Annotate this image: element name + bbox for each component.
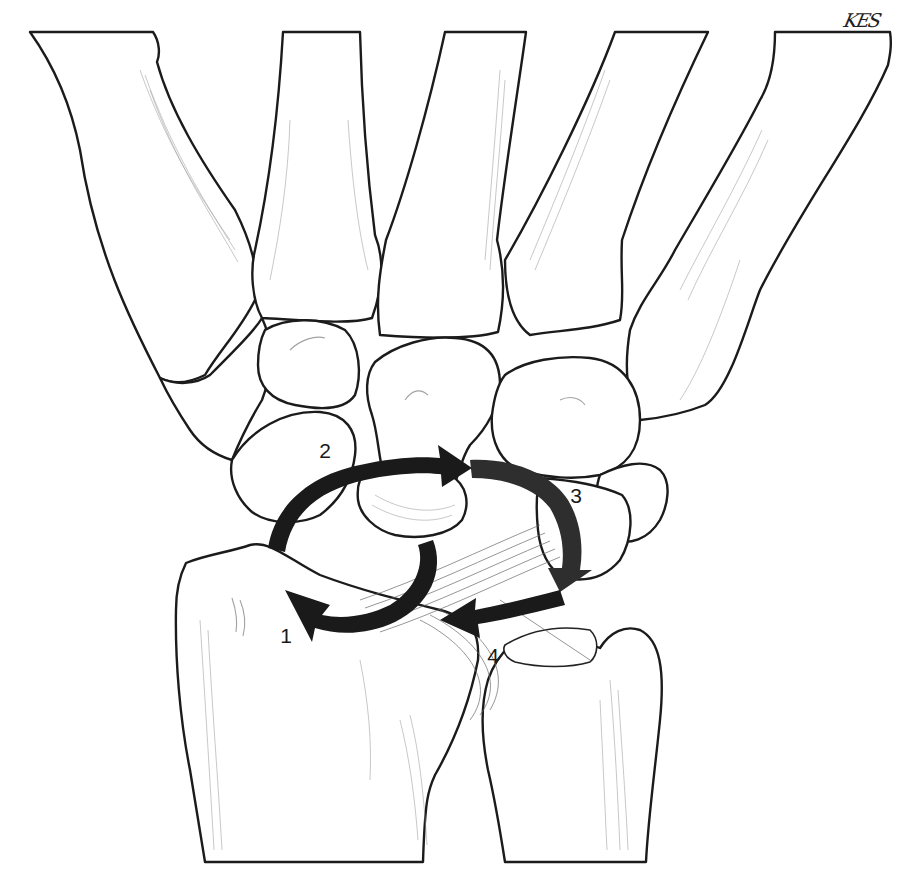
metacarpal-3 [378,32,526,338]
wrist-bones-drawing [0,0,908,880]
label-1: 1 [280,625,292,646]
metacarpal-2 [252,32,381,322]
metacarpal-1 [30,32,256,382]
trapezoid [258,320,359,408]
label-3: 3 [570,485,582,506]
artist-signature: KES [842,9,882,31]
hamate [492,357,640,478]
label-4: 4 [487,645,499,666]
carpals [160,318,668,579]
wrist-illustration: 1 2 3 4 KES [0,0,908,880]
arrow-arc-right [470,460,592,592]
label-2: 2 [319,440,331,461]
